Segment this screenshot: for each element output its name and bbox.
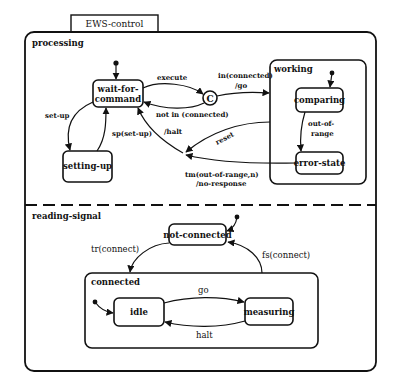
title-tab: EWS-control: [71, 15, 158, 32]
transition-in-connected-go: [217, 92, 269, 96]
transition-label-fs-connect: fs(connect): [262, 250, 310, 260]
transition-label-go: go: [198, 285, 209, 295]
transition-sp-set-up: [97, 108, 106, 151]
transition-execute: [143, 84, 203, 94]
transition-label-tm: tm(out-of-range,n): [185, 170, 259, 179]
transition-go: [164, 298, 244, 303]
transition-label-in-connected: in(connected): [218, 71, 273, 80]
state-label-command: command: [95, 94, 142, 104]
superstate-label-connected: connected: [91, 277, 140, 287]
state-label-measuring: measuring: [244, 307, 295, 317]
transition-label-halt: halt: [196, 330, 213, 340]
transition-set-up: [68, 102, 93, 150]
state-label-idle: idle: [130, 307, 148, 317]
transition-label-execute: execute: [157, 73, 188, 82]
transition-halt-measuring: [165, 321, 245, 326]
transition-label-go-action: /go: [235, 81, 247, 90]
transition-out-of-range: [301, 112, 305, 151]
transition-label-tr-connect: tr(connect): [91, 244, 139, 254]
state-label-error-state: error-state: [294, 158, 346, 168]
transition-label-out-of: out-of-: [308, 119, 334, 128]
state-label-comparing: comparing: [294, 95, 345, 105]
statechart-diagram: EWS-control processing reading-signal wa…: [0, 0, 399, 391]
transition-label-not-in-connected: not in (connected): [156, 110, 229, 119]
transition-label-sp-set-up: sp(set-up): [112, 129, 152, 138]
transition-not-in-connected: [144, 102, 204, 108]
region-label-processing: processing: [32, 38, 84, 48]
state-label-not-connected: not-connected: [163, 230, 231, 240]
transition-tm-out-of-range: [186, 155, 296, 163]
transition-label-range: range: [311, 129, 334, 138]
diagram-title: EWS-control: [86, 19, 144, 29]
connector-label: C: [206, 94, 213, 104]
transition-label-reset: reset: [214, 129, 236, 147]
region-label-reading-signal: reading-signal: [32, 211, 102, 221]
ews-control-state: [25, 32, 376, 371]
state-label-wait-for: wait-for-: [97, 84, 139, 94]
transition-fs-connect: [228, 242, 262, 273]
initial-transition-connected: [95, 302, 113, 313]
superstate-label-working: working: [273, 64, 313, 74]
transition-label-set-up: set-up: [45, 111, 70, 120]
transition-label-no-response: /no-response: [196, 179, 247, 188]
state-label-setting-up: setting-up: [63, 161, 112, 171]
transition-label-halt-action: /halt: [164, 127, 183, 136]
